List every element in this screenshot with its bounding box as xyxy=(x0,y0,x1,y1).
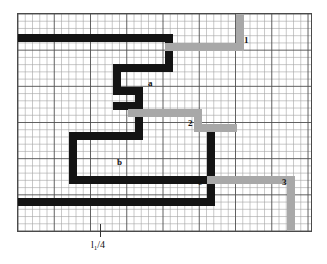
figure-label-c: c xyxy=(198,178,202,187)
path-segments-layer xyxy=(18,14,311,231)
axis-label-fraction: /4 xyxy=(97,239,105,250)
black-top-horizontal-bar xyxy=(18,34,173,42)
axis-label-l1-over-4: l1/4 xyxy=(91,240,105,252)
gray-2-lower-horizontal xyxy=(194,124,237,132)
figure-label-2: 2 xyxy=(188,119,193,128)
figure-canvas: 1a2bc3 l1/4 xyxy=(0,0,327,264)
grid-plot-area xyxy=(17,13,312,232)
gray-1-horizontal xyxy=(165,43,244,51)
figure-label-a: a xyxy=(148,79,153,88)
black-b-top-horizontal xyxy=(69,132,143,140)
figure-label-1: 1 xyxy=(244,36,249,45)
figure-label-3: 3 xyxy=(282,178,287,187)
gray-2-upper-horizontal xyxy=(128,109,202,117)
figure-label-b: b xyxy=(117,158,122,167)
black-bottom-long-horizontal xyxy=(18,198,215,206)
gray-3-vertical xyxy=(287,176,295,232)
black-c-right-vertical xyxy=(207,124,215,206)
black-zig-a-horizontal xyxy=(113,64,173,72)
axis-tick-mark xyxy=(100,224,101,237)
